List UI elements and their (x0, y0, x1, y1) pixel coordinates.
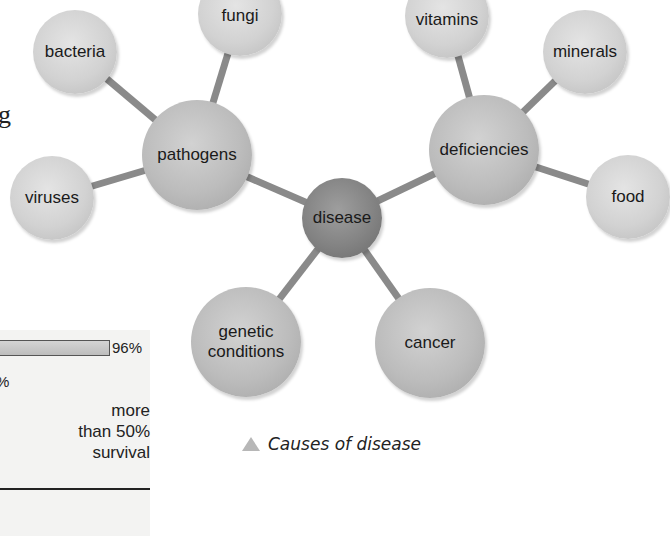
figure-caption: Causes of disease (242, 434, 421, 454)
node-label: vitamins (416, 10, 478, 30)
node-label-line-1: genetic (219, 322, 274, 341)
node-label: genetic conditions (208, 322, 285, 362)
triangle-icon (242, 437, 260, 451)
node-genetic-conditions: genetic conditions (191, 287, 301, 397)
node-label: pathogens (157, 145, 236, 165)
caption-text: Causes of disease (268, 434, 421, 454)
node-disease: disease (302, 178, 382, 258)
node-label: minerals (553, 42, 617, 62)
node-label: cancer (404, 333, 455, 353)
node-label: food (611, 187, 644, 207)
node-label: fungi (222, 6, 259, 26)
node-viruses: viruses (10, 156, 94, 240)
node-food: food (586, 155, 670, 239)
node-label: deficiencies (440, 140, 529, 160)
node-label: disease (313, 208, 372, 228)
node-label: bacteria (45, 42, 105, 62)
node-minerals: minerals (543, 10, 627, 94)
node-label-line-2: conditions (208, 342, 285, 361)
node-deficiencies: deficiencies (429, 95, 539, 205)
node-label: viruses (25, 188, 79, 208)
node-pathogens: pathogens (142, 100, 252, 210)
node-bacteria: bacteria (33, 10, 117, 94)
node-cancer: cancer (375, 288, 485, 398)
